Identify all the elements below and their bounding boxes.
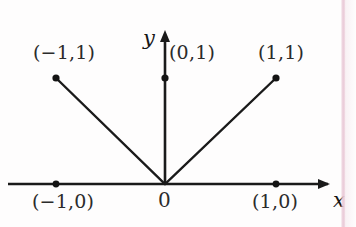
label-point-minus1-0: (−1,0) bbox=[32, 192, 94, 211]
label-point-minus1-1: (−1,1) bbox=[33, 43, 95, 62]
point-1-0 bbox=[273, 181, 280, 188]
point-1-1 bbox=[272, 74, 279, 81]
label-point-0-1: (0,1) bbox=[169, 43, 215, 62]
x-axis-arrowhead bbox=[318, 179, 330, 189]
point-minus1-1 bbox=[52, 74, 59, 81]
page-margin-stripe-fade bbox=[346, 0, 356, 227]
figure-container: (−1,1) (0,1) (1,1) (−1,0) (1,0) 0 y x bbox=[0, 0, 356, 227]
label-origin: 0 bbox=[158, 190, 171, 210]
label-y-axis: y bbox=[143, 28, 155, 49]
label-point-1-0: (1,0) bbox=[252, 192, 298, 211]
point-minus1-0 bbox=[53, 181, 60, 188]
label-point-1-1: (1,1) bbox=[258, 43, 304, 62]
point-0-1 bbox=[161, 74, 168, 81]
